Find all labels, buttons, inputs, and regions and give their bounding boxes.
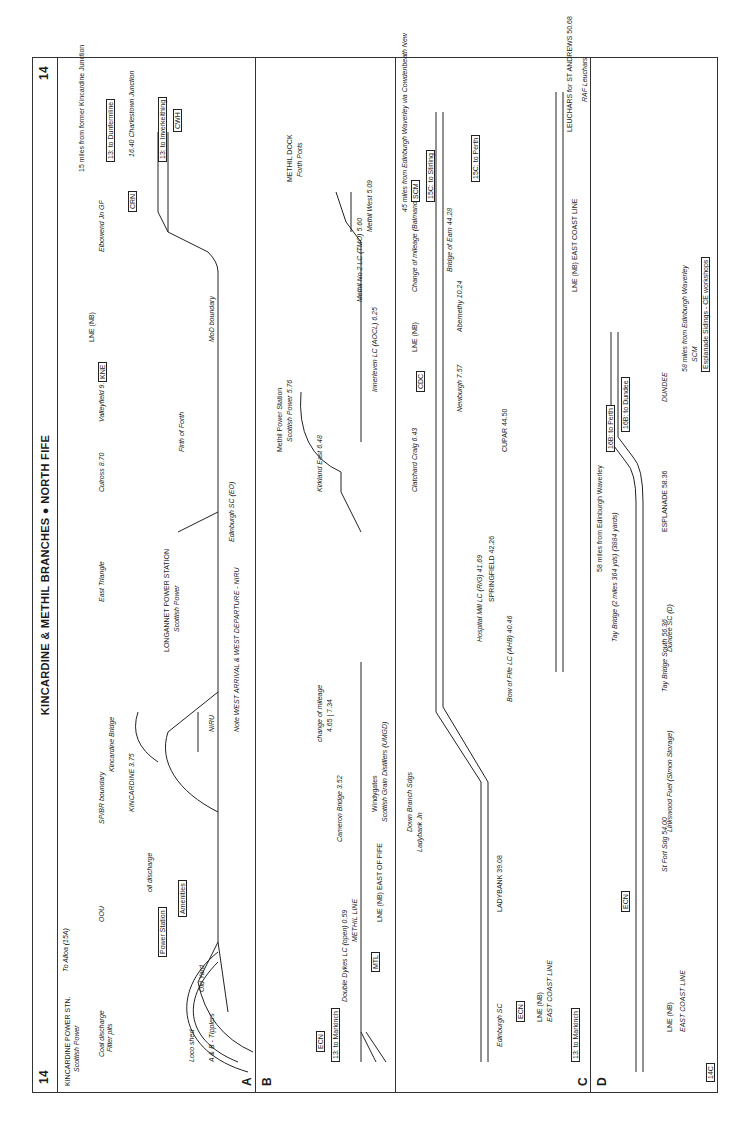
station-springfield: SPRINGFIELD 42.26 — [488, 536, 495, 602]
section-label-c: C — [576, 1077, 590, 1086]
page-number-right: 14 — [37, 66, 51, 80]
label-esplanade-sidings: DUNDEE — [661, 372, 668, 402]
label-power-station: Power Station — [158, 907, 167, 957]
elr-box-scm-d: 16B: to Perth — [606, 405, 615, 452]
label-oou: OOU — [98, 906, 105, 922]
route-58-miles: 58 miles from Edinburgh Waverley — [596, 465, 603, 572]
label-east-of-fife: LNE (NB) EAST OF FIFE — [376, 843, 383, 922]
label-tipplers: A & B - Tipplers — [208, 1013, 215, 1062]
elr-box-scm: SCM — [411, 180, 420, 202]
label-methil-west: Methil West 5.09 — [366, 180, 373, 232]
label-double-dykes: Double Dykes LC (open) 0.59 — [341, 910, 348, 1002]
box-to-markinch-c: 13: to Markinch — [571, 1008, 580, 1062]
station-cupar: CUPAR 44.50 — [501, 409, 508, 452]
label-amenities: Amenities — [178, 880, 187, 917]
section-label-b: B — [260, 1077, 274, 1086]
elr-box-kne: KNE — [98, 362, 107, 382]
box-to-stirling: 15C: to Stirling — [426, 150, 435, 202]
label-dundee-central-jn: SCM — [691, 346, 698, 362]
section-b-tracks — [256, 56, 396, 1092]
label-lne-nb: LNE (NB) — [88, 312, 95, 342]
label-forth-ports: Forth Ports — [296, 142, 303, 177]
label-lne-nb-c: LNE (NB) — [536, 992, 543, 1022]
label-coal-discharge: Coal discharge — [98, 1010, 105, 1057]
label-longannet-ps: LONGANNET POWER STATION — [163, 549, 170, 652]
elr-box-ecn-d: ECN — [621, 891, 630, 912]
station-leuchars: LEUCHARS for ST ANDREWS 50.68 — [566, 16, 573, 132]
box-to-markinch: 13: to Markinch — [331, 1008, 340, 1062]
section-a: A KINCARDINE POWER STN. Scottish Power T… — [58, 58, 256, 1092]
section-a-tracks — [58, 56, 256, 1092]
box-to-dunfermline: 13: to Dunfermline — [106, 99, 115, 162]
label-linkswood: Linkswood Fuel (Simon Storage) — [666, 730, 673, 832]
label-crombie: MoD boundary — [208, 296, 215, 342]
label-edinburgh-sc: Edinburgh SC — [496, 1003, 503, 1047]
label-ladybank-jn: Ladybank Jn — [416, 812, 423, 852]
label-hospital-mill: Hospital Mill LC (R/G) 41.69 — [476, 555, 483, 642]
elr-box-ecn-c: ECN — [516, 1001, 525, 1022]
label-clatchard: Clatchard Craig 6.43 — [411, 428, 418, 492]
station-ladybank: LADYBANK 39.08 — [496, 855, 503, 912]
elr-box-crn: CRN — [128, 191, 137, 212]
station-abernethy: Abernethy 10.24 — [456, 281, 463, 332]
label-mileage-465-734: 4.65 | 7.34 — [326, 699, 333, 732]
label-kincardine-station: KINCARDINE 3.75 — [128, 753, 135, 812]
section-d: D 14C LNE (NB) EAST COAST LINE ECN St Fo… — [591, 58, 719, 1092]
section-c: C 13: to Markinch Edinburgh SC ECN LNE (… — [396, 58, 591, 1092]
page-title: KINCARDINE & METHIL BRANCHES ● NORTH FIF… — [39, 435, 51, 715]
station-newburgh: Newburgh 7.57 — [456, 365, 463, 412]
label-sp-br-boundary: SP/BR boundary — [98, 772, 105, 824]
label-bow-of-fife: Bow of Fife LC (AHB) 40.46 — [506, 616, 513, 702]
section-b: B ECN 13: to Markinch Double Dykes LC (o… — [256, 58, 396, 1092]
label-east-coast-d: EAST COAST LINE — [679, 970, 686, 1032]
label-east-triangle: East Triangle — [98, 561, 105, 602]
label-dundee-sc: Dundee SC (D) — [666, 604, 673, 652]
elr-box-cwh: CWH — [173, 109, 182, 132]
label-firth-of-forth: Firth of Forth — [178, 412, 185, 452]
elr-box-cdc: CDC — [416, 371, 425, 392]
box-to-perth: 15C: to Perth — [471, 135, 480, 182]
route-start: 15 miles from former Kincardine Junction — [78, 45, 85, 172]
box-to-inverkeithing: 13: to Inverkeithing — [158, 97, 167, 162]
elr-box-mtl: MTL — [371, 952, 380, 972]
label-change-mileage-balmano: Change of mileage (Balmano Jn.) — [411, 188, 418, 292]
label-windygates: Windygates — [371, 775, 378, 812]
owner-scottish-power: Scottish Power — [73, 1025, 80, 1072]
label-charlestown-jn: 16.40 Charlestown Junction — [128, 71, 135, 157]
section-label-a: A — [240, 1077, 254, 1086]
label-edinburgh-sc-eo: Edinburgh SC (EO) — [228, 482, 235, 542]
label-oil-discharge: oil discharge — [146, 853, 153, 892]
label-old-yard: Old Yard — [198, 965, 205, 992]
label-filter-pits: Filter pits — [106, 1024, 113, 1052]
label-methil-ps: Methil Power Station — [276, 388, 283, 452]
label-loco-shed: Loco shed — [188, 1030, 195, 1062]
label-methil-dock: METHIL DOCK — [286, 134, 293, 182]
label-longannet-owner: Scottish Power — [173, 585, 180, 632]
label-methil-ps-owner: Scottish Power 5.76 — [286, 380, 293, 442]
section-label-d: D — [595, 1077, 609, 1086]
label-dundee: 58 miles from Edinburgh Waverley — [681, 265, 688, 372]
label-lne-east-coast: LNE (NB) EAST COAST LINE — [571, 199, 578, 293]
route-45-miles: 45 miles from Edinburgh Waverley via Cow… — [401, 33, 408, 212]
label-bridge-of-earn: Bridge of Earn 44.28 — [446, 208, 453, 272]
label-to-alloa: To Alloa (15A) — [62, 928, 69, 972]
page-number-left: 14 — [37, 1070, 51, 1084]
elr-box-ecn: ECN — [316, 1031, 325, 1052]
label-esplanade: ESPLANADE 58.36 — [661, 471, 668, 532]
label-elbowend: Elbowend Jn GF — [98, 200, 105, 252]
label-lne-nb-d: LNE (NB) — [666, 1002, 673, 1032]
label-methil-no2: Methil No 2 LC (TMO) 5.60 — [356, 218, 363, 302]
page-header: 14 KINCARDINE & METHIL BRANCHES ● NORTH … — [33, 58, 58, 1092]
label-methil-line: METHIL LINE — [351, 899, 358, 942]
label-down-branch: Down Branch Sdgs — [406, 772, 413, 832]
label-niru: NIRU — [208, 715, 215, 732]
station-kincardine-power: KINCARDINE POWER STN. — [64, 997, 71, 1086]
label-scottish-grain: Scottish Grain Distillers (UMGD) — [381, 722, 388, 822]
label-lne-nb-cdc: LNE (NB) — [411, 322, 418, 352]
section-a-note: Note WEST ARRIVAL & WEST DEPARTURE - NIR… — [233, 567, 240, 732]
label-kincardine-bridge: Kincardine Bridge — [108, 717, 115, 772]
label-tay-bridge: Tay Bridge (2 miles 364 yds) (3884 yards… — [611, 512, 618, 642]
box-14c: 14C — [706, 1063, 715, 1082]
station-cameron-bridge: Cameron Bridge 3.52 — [336, 775, 343, 842]
label-innerleven: Innerleven LC (AOCL) 6.25 — [371, 307, 378, 392]
